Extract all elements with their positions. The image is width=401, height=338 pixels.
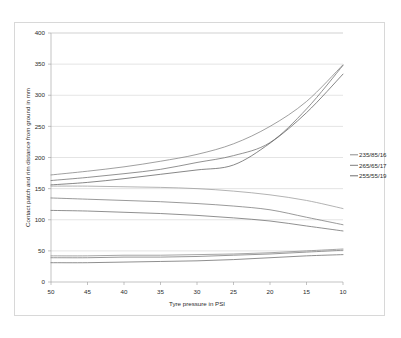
legend-label-255-55-19: 255/55/19 bbox=[359, 172, 387, 179]
y-axis-tick-label: 350 bbox=[35, 60, 46, 67]
x-axis-tick-label: 45 bbox=[84, 288, 91, 295]
legend-label-265-65-17: 265/65/17 bbox=[359, 162, 387, 169]
x-axis-tick-label: 40 bbox=[121, 288, 128, 295]
y-axis-title: Contact patch and rim distance from grou… bbox=[24, 88, 31, 227]
series-line-255-55-19-contact-patch bbox=[51, 210, 343, 231]
x-axis-tick-label: 50 bbox=[48, 288, 55, 295]
x-axis-tick-label: 35 bbox=[157, 288, 164, 295]
series-line-235-85-16-contact-patch bbox=[51, 186, 343, 208]
series-line-255-55-19-rim-distance bbox=[51, 74, 343, 185]
y-axis-tick-label: 300 bbox=[35, 91, 46, 98]
y-axis-tick-label: 250 bbox=[35, 123, 46, 130]
x-axis-tick-label: 25 bbox=[230, 288, 237, 295]
x-axis-tick-label: 20 bbox=[267, 288, 274, 295]
chart-canvas: 0501001502002503003504005045403530252015… bbox=[0, 0, 401, 338]
x-axis-tick-label: 15 bbox=[303, 288, 310, 295]
x-axis-tick-label: 30 bbox=[194, 288, 201, 295]
series-line-265-65-17-rim-distance bbox=[51, 65, 343, 180]
line-chart: 0501001502002503003504005045403530252015… bbox=[0, 0, 401, 338]
legend-label-235-85-16: 235/85/16 bbox=[359, 151, 387, 158]
y-axis-tick-label: 150 bbox=[35, 185, 46, 192]
y-axis-tick-label: 0 bbox=[42, 278, 46, 285]
y-axis-tick-label: 200 bbox=[35, 154, 46, 161]
y-axis-tick-label: 100 bbox=[35, 216, 46, 223]
x-axis-tick-label: 10 bbox=[340, 288, 347, 295]
y-axis-tick-label: 400 bbox=[35, 29, 46, 36]
x-axis-title: Tyre pressure in PSI bbox=[169, 300, 225, 307]
y-axis-tick-label: 50 bbox=[38, 247, 45, 254]
